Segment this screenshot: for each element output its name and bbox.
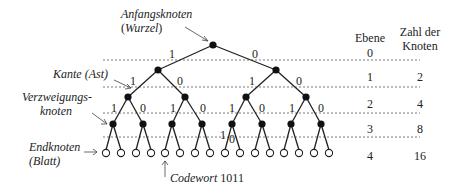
edge-label: 1 — [118, 74, 148, 89]
edge-label: 1 — [99, 101, 129, 116]
edge-label: 0 — [217, 132, 247, 147]
edge-label: 1 — [237, 74, 267, 89]
count-header-line2: Knoten — [390, 40, 450, 53]
root-annotation: Anfangsknoten — [121, 8, 192, 21]
level-value: 2 — [355, 97, 385, 112]
count-value: 16 — [405, 149, 435, 164]
count-value: 2 — [405, 70, 435, 85]
leaf-annotation-line2: (Blatt) — [29, 155, 60, 168]
branch-node-annotation-line2: knoten — [40, 105, 72, 118]
codeword-annotation: Codewort 1011 — [170, 172, 244, 185]
branch-node-annotation: Verzweigungs- — [22, 91, 92, 104]
level-value: 0 — [355, 46, 385, 61]
count-value: 4 — [405, 97, 435, 112]
level-value: 4 — [355, 149, 385, 164]
edge-label: 1 — [158, 101, 188, 116]
edge-label: 0 — [247, 101, 277, 116]
root-node — [209, 41, 216, 48]
level-value: 1 — [355, 70, 385, 85]
root-word: Wurzel — [125, 21, 158, 35]
edge-label: 1 — [277, 101, 307, 116]
count-value: 8 — [405, 122, 435, 137]
edge-annotation: Kante (Ast) — [53, 68, 108, 81]
leaf-annotation: Endknoten — [29, 141, 80, 154]
level-header: Ebene — [350, 32, 390, 45]
edge-label: 0 — [128, 101, 158, 116]
edge-label: 0 — [284, 74, 314, 89]
edge-label: 0 — [306, 101, 336, 116]
count-header: Zahl der — [390, 26, 450, 39]
codeword-value: 1011 — [220, 171, 244, 185]
edge-label: 0 — [240, 47, 270, 62]
leaf-nodes — [102, 149, 332, 156]
paren-close: ) — [158, 21, 162, 35]
codeword-label: Codewort — [170, 171, 217, 185]
edge-label: 0 — [165, 74, 195, 89]
edge-label: 1 — [217, 101, 247, 116]
edge-label: 0 — [188, 101, 218, 116]
root-annotation-line2: (Wurzel) — [121, 22, 162, 35]
level-value: 3 — [355, 122, 385, 137]
edge-label: 1 — [157, 47, 187, 62]
